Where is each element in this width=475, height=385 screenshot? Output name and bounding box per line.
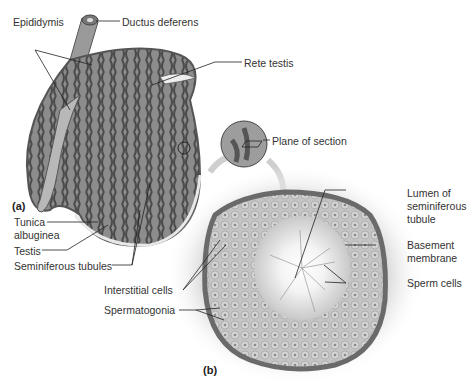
label-basement-membrane-line2: membrane [407, 252, 457, 264]
tubule-cross-section [165, 165, 425, 385]
label-lumen-line2: seminiferous [407, 200, 467, 212]
label-tunica-albuginea-line1: Tunica [14, 216, 45, 228]
testis-section-shape [27, 49, 200, 246]
label-ductus-deferens: Ductus deferens [122, 16, 198, 28]
label-testis: Testis [14, 245, 41, 257]
label-basement-membrane-line1: Basement [407, 239, 454, 251]
label-epididymis: Epididymis [13, 16, 64, 28]
testis-illustration [0, 0, 475, 385]
label-rete-testis: Rete testis [244, 57, 294, 69]
panel-b-tag: (b) [203, 364, 217, 376]
label-lumen-line1: Lumen of [407, 187, 451, 199]
panel-a-tag: (a) [12, 200, 25, 212]
label-spermatogonia: Spermatogonia [104, 304, 175, 316]
label-seminiferous-tubules: Seminiferous tubules [14, 260, 112, 272]
label-interstitial-cells: Interstitial cells [104, 284, 173, 296]
plane-of-section-inset [221, 121, 267, 167]
label-tunica-albuginea-line2: albuginea [14, 229, 60, 241]
label-sperm-cells: Sperm cells [407, 277, 462, 289]
label-plane-of-section: Plane of section [272, 135, 347, 147]
label-lumen-line3: tubule [407, 213, 436, 225]
